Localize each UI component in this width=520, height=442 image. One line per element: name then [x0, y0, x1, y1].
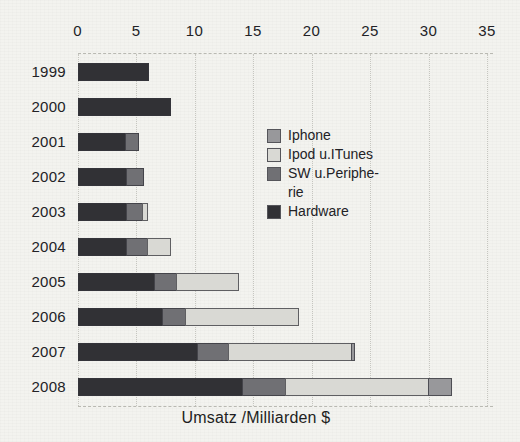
x-tick-label-20: 20 [303, 22, 320, 39]
legend-item-hardware: Hardware [267, 202, 379, 221]
bar-segment-sw-u-peripherie-2004 [126, 238, 148, 256]
bar-row-2000 [78, 98, 172, 116]
bar-row-2002 [78, 168, 145, 186]
scanned-revenue-chart-page: 05101520253035 1999200020012002200320042… [0, 0, 520, 442]
legend-swatch-icon-hardware [267, 205, 281, 219]
bar-segment-sw-u-peripherie-2002 [126, 168, 145, 186]
bar-row-2006 [78, 308, 299, 326]
x-tick-label-15: 15 [244, 22, 261, 39]
year-label-2008: 2008 [8, 378, 66, 396]
legend-item-ipod-u-itunes: Ipod u.ITunes [267, 145, 379, 164]
year-label-2007: 2007 [8, 343, 66, 361]
bar-segment-ipod-u-itunes-2007 [228, 343, 352, 361]
bar-segment-ipod-u-itunes-2006 [185, 308, 299, 326]
year-label-2004: 2004 [8, 238, 66, 256]
year-label-2000: 2000 [8, 98, 66, 116]
legend-swatch-icon-sw-u-peripherie [267, 167, 281, 181]
bar-segment-sw-u-peripherie-2003 [126, 203, 144, 221]
x-tick-label-35: 35 [478, 22, 495, 39]
gridline-25 [370, 54, 371, 406]
x-tick-label-30: 30 [420, 22, 437, 39]
bar-segment-hardware-2001 [78, 133, 126, 151]
legend-swatch-icon-iphone [267, 129, 281, 143]
bar-segment-iphone-2007 [351, 343, 356, 361]
bar-segment-hardware-2003 [78, 203, 127, 221]
bar-row-2003 [78, 203, 148, 221]
legend-swatch-icon-ipod-u-itunes [267, 148, 281, 162]
bar-row-2008 [78, 378, 453, 396]
x-axis-title: Umsatz /Milliarden $ [0, 409, 512, 427]
x-tick-label-10: 10 [186, 22, 203, 39]
bar-segment-hardware-2000 [78, 98, 172, 116]
year-label-2003: 2003 [8, 203, 66, 221]
bar-segment-hardware-2008 [78, 378, 243, 396]
legend: IphoneIpod u.ITunesSW u.Periphe-rieHardw… [267, 126, 379, 221]
year-label-2001: 2001 [8, 133, 66, 151]
bar-segment-sw-u-peripherie-2006 [162, 308, 187, 326]
x-tick-label-5: 5 [132, 22, 141, 39]
bar-row-2001 [78, 133, 139, 151]
bar-segment-ipod-u-itunes-2004 [147, 238, 172, 256]
bar-row-2004 [78, 238, 172, 256]
year-label-2006: 2006 [8, 308, 66, 326]
x-tick-label-25: 25 [361, 22, 378, 39]
legend-label: Hardware [288, 202, 349, 221]
year-label-2005: 2005 [8, 273, 66, 291]
legend-label: Iphone [288, 126, 331, 145]
bar-row-2007 [78, 343, 356, 361]
x-tick-label-0: 0 [73, 22, 82, 39]
legend-label: SW u.Periphe-rie [288, 164, 379, 202]
bar-segment-hardware-2006 [78, 308, 163, 326]
gridline-30 [429, 54, 430, 406]
bar-segment-ipod-u-itunes-2003 [142, 203, 148, 221]
bar-segment-hardware-2002 [78, 168, 127, 186]
bar-segment-hardware-1999 [78, 63, 149, 81]
bar-segment-hardware-2004 [78, 238, 127, 256]
year-label-1999: 1999 [8, 63, 66, 81]
bar-segment-iphone-2008 [428, 378, 453, 396]
legend-label: Ipod u.ITunes [288, 145, 373, 164]
bar-segment-ipod-u-itunes-2005 [176, 273, 239, 291]
year-label-2002: 2002 [8, 168, 66, 186]
legend-item-iphone: Iphone [267, 126, 379, 145]
bar-row-2005 [78, 273, 240, 291]
bar-segment-sw-u-peripherie-2005 [154, 273, 177, 291]
bar-segment-sw-u-peripherie-2001 [125, 133, 139, 151]
bar-segment-sw-u-peripherie-2007 [197, 343, 229, 361]
legend-item-sw-u-peripherie: SW u.Periphe-rie [267, 164, 379, 202]
bar-segment-hardware-2007 [78, 343, 199, 361]
bar-segment-ipod-u-itunes-2008 [285, 378, 429, 396]
bar-row-1999 [78, 63, 149, 81]
bar-segment-sw-u-peripherie-2008 [242, 378, 287, 396]
bar-segment-hardware-2005 [78, 273, 155, 291]
gridline-35 [487, 54, 488, 406]
